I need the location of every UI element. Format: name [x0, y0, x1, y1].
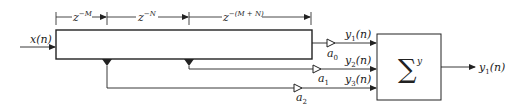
- delay-line-box: [56, 30, 312, 59]
- tap2-pickoff-icon: [102, 59, 112, 66]
- delay-label-1: z−M: [72, 10, 93, 24]
- gain-a1-label: a1: [318, 72, 329, 87]
- signal-y3-label: y3(n): [344, 73, 371, 88]
- delay-line-diagram: z−M z−N z−(M + N) x(n) a0 y1(n) a1 y2(n)…: [0, 0, 520, 104]
- delay-label-2: z−N: [137, 10, 157, 24]
- delay-label-3: z−(M + N): [222, 10, 264, 24]
- tap1-pickoff-icon: [184, 59, 194, 66]
- delay-dimension-bars: [56, 12, 311, 25]
- gain-a2-label: a2: [296, 91, 307, 104]
- input-label: x(n): [30, 33, 52, 46]
- gain-a0-triangle: [327, 39, 335, 47]
- summer-superscript: y: [416, 56, 423, 66]
- output-label: y1(n): [478, 61, 505, 76]
- sigma-icon: ∑: [398, 54, 417, 84]
- signal-y1-label: y1(n): [344, 28, 371, 43]
- gain-a0-label: a0: [327, 47, 338, 62]
- signal-y2-label: y2(n): [344, 54, 371, 69]
